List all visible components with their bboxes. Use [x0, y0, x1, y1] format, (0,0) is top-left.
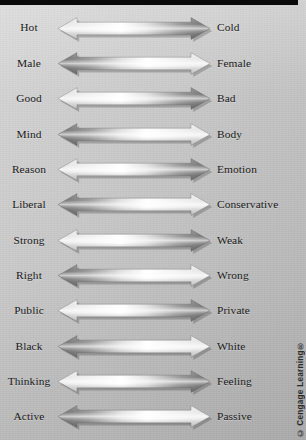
left-pole-label: Male — [0, 58, 58, 69]
dichotomy-row: GoodBad — [0, 81, 306, 116]
double-arrow-icon — [58, 299, 210, 322]
dichotomy-row: BlackWhite — [0, 329, 306, 364]
left-pole-label: Thinking — [0, 376, 58, 387]
right-pole-label: Passive — [217, 411, 252, 422]
dichotomy-row: LiberalConservative — [0, 187, 306, 222]
right-pole-label: Emotion — [217, 164, 257, 175]
double-arrow-icon — [58, 405, 210, 428]
dichotomy-row: ThinkingFeeling — [0, 364, 306, 399]
double-arrow-icon — [58, 193, 210, 216]
double-arrow-icon — [58, 87, 210, 110]
double-arrow-icon — [58, 370, 210, 393]
double-arrow-icon — [58, 335, 210, 358]
left-pole-label: Mind — [0, 129, 58, 140]
left-pole-label: Active — [0, 411, 58, 422]
copyright-credit: © Cengage Learning® — [296, 341, 305, 437]
dichotomy-row: MaleFemale — [0, 46, 306, 81]
bipolar-dichotomies-figure: HotColdMaleFemaleGoodBadMindBodyReasonEm… — [0, 0, 306, 440]
dichotomy-row: PublicPrivate — [0, 293, 306, 328]
right-pole-label: Cold — [217, 22, 240, 33]
right-pole-label: Private — [217, 305, 250, 316]
dichotomy-row: MindBody — [0, 117, 306, 152]
dichotomy-row: HotCold — [0, 11, 306, 46]
double-arrow-icon — [58, 229, 210, 252]
double-arrow-icon — [58, 158, 210, 181]
dichotomy-row: ActivePassive — [0, 399, 306, 434]
right-pole-label: Feeling — [217, 376, 252, 387]
right-pole-label: Bad — [217, 93, 236, 104]
dichotomy-row-list: HotColdMaleFemaleGoodBadMindBodyReasonEm… — [0, 5, 306, 440]
left-pole-label: Reason — [0, 164, 58, 175]
right-pole-label: Wrong — [217, 270, 249, 281]
right-pole-label: Conservative — [217, 199, 278, 210]
double-arrow-icon — [58, 123, 210, 146]
double-arrow-icon — [58, 264, 210, 287]
left-pole-label: Good — [0, 93, 58, 104]
double-arrow-icon — [58, 52, 210, 75]
top-black-bar — [0, 0, 298, 5]
left-pole-label: Right — [0, 270, 58, 281]
right-pole-label: Female — [217, 58, 251, 69]
left-pole-label: Black — [0, 341, 58, 352]
right-pole-label: Weak — [217, 235, 243, 246]
dichotomy-row: StrongWeak — [0, 223, 306, 258]
dichotomy-row: ReasonEmotion — [0, 152, 306, 187]
left-pole-label: Hot — [0, 22, 58, 33]
right-pole-label: White — [217, 341, 245, 352]
left-pole-label: Public — [0, 305, 58, 316]
left-pole-label: Strong — [0, 235, 58, 246]
left-pole-label: Liberal — [0, 199, 58, 210]
right-pole-label: Body — [217, 129, 242, 140]
double-arrow-icon — [58, 17, 210, 40]
dichotomy-row: RightWrong — [0, 258, 306, 293]
